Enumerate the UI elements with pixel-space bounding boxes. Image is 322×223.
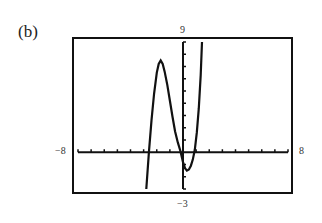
xmax-label: 8 bbox=[299, 145, 304, 156]
calculator-graph bbox=[0, 0, 322, 223]
function-curve bbox=[146, 42, 202, 189]
ymin-label: −3 bbox=[177, 198, 188, 209]
ymax-label: 9 bbox=[180, 24, 185, 35]
axes bbox=[78, 42, 288, 189]
xmin-label: −8 bbox=[55, 145, 66, 156]
